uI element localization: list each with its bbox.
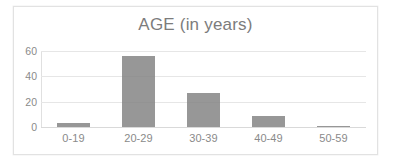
plot-area	[41, 51, 366, 127]
x-axis-tick-label: 50-59	[301, 132, 366, 144]
x-axis: 0-19 20-29 30-39 40-49 50-59	[41, 132, 366, 144]
x-axis-tick-label: 40-49	[236, 132, 301, 144]
gridline-0	[41, 127, 366, 128]
bar-slot	[106, 51, 171, 127]
bar[interactable]	[187, 93, 220, 127]
y-axis: 60 40 20 0	[14, 51, 37, 127]
y-axis-tick-label: 20	[13, 96, 37, 107]
bar[interactable]	[122, 56, 155, 127]
x-axis-tick-label: 30-39	[171, 132, 236, 144]
bar[interactable]	[317, 126, 350, 128]
bar-slot	[41, 51, 106, 127]
bar-slot	[171, 51, 236, 127]
y-axis-tick-label: 40	[13, 71, 37, 82]
bar-slot	[301, 51, 366, 127]
chart-container: AGE (in years) 60 40 20 0	[13, 6, 378, 155]
y-axis-tick-label: 60	[13, 46, 37, 57]
y-axis-tick-label: 0	[13, 122, 37, 133]
chart-title: AGE (in years)	[14, 15, 377, 35]
x-axis-tick-label: 20-29	[106, 132, 171, 144]
bar-series	[41, 51, 366, 127]
x-axis-tick-label: 0-19	[41, 132, 106, 144]
bar[interactable]	[57, 123, 90, 127]
bar-slot	[236, 51, 301, 127]
bar[interactable]	[252, 116, 285, 127]
